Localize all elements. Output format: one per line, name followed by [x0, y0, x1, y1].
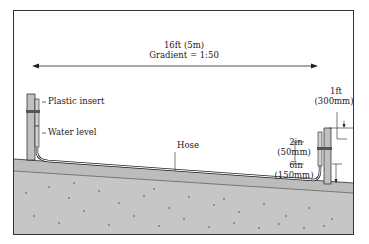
water-level-label: Water level	[48, 128, 97, 137]
plastic-insert-label: Plastic insert	[48, 97, 105, 106]
left-post	[27, 94, 35, 160]
distance-label: 16ft (5m)	[134, 41, 234, 50]
six-in-label: 6in	[276, 161, 316, 170]
diagram-frame: 16ft (5m) Gradient = 1:50 Plastic insert…	[13, 10, 354, 235]
fifty-mm-label: (50mm)	[272, 148, 316, 157]
hundred-fifty-mm-label: (150mm)	[270, 171, 318, 180]
right-clamp	[317, 147, 332, 150]
hose-label: Hose	[177, 141, 199, 150]
right-post	[324, 128, 331, 184]
left-clamp	[26, 110, 40, 113]
gradient-label: Gradient = 1:50	[124, 51, 244, 60]
three-hundred-mm-label: (300mm)	[314, 97, 354, 106]
left-plastic-insert	[35, 99, 39, 147]
one-ft-label: 1ft	[319, 87, 353, 96]
two-in-label: 2in	[276, 138, 316, 147]
